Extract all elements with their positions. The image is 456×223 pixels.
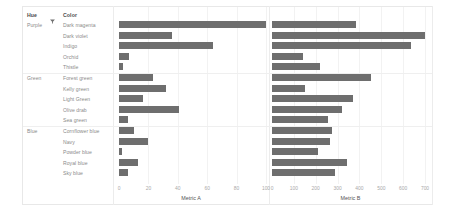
color-row-label: Forest green bbox=[63, 75, 92, 81]
bar-metric-b[interactable] bbox=[272, 85, 305, 92]
color-row-label: Indigo bbox=[63, 43, 77, 49]
tick-metric-a: 60 bbox=[204, 186, 209, 191]
color-row-label: Orchid bbox=[63, 54, 78, 60]
bar-metric-b[interactable] bbox=[272, 74, 371, 81]
color-row-label: Powder blue bbox=[63, 149, 92, 155]
tick-metric-b: 300 bbox=[333, 186, 341, 191]
bar-metric-b[interactable] bbox=[272, 95, 353, 102]
header-hue[interactable]: Hue bbox=[27, 12, 37, 18]
bar-metric-b[interactable] bbox=[272, 138, 330, 145]
bar-metric-b[interactable] bbox=[272, 127, 332, 134]
gridline-metric-b-700 bbox=[425, 7, 426, 184]
tick-metric-b: 400 bbox=[355, 186, 363, 191]
bar-metric-a[interactable] bbox=[119, 169, 128, 176]
bar-metric-b[interactable] bbox=[272, 116, 328, 123]
hue-group-label: Green bbox=[27, 75, 41, 81]
bar-metric-a[interactable] bbox=[119, 42, 213, 49]
group-divider bbox=[23, 73, 432, 74]
color-row-label: Cornflower blue bbox=[63, 128, 99, 134]
bar-metric-b[interactable] bbox=[272, 159, 347, 166]
color-row-label: Light Green bbox=[63, 96, 90, 102]
color-row-label: Dark magenta bbox=[63, 22, 96, 28]
gridline-metric-a-80 bbox=[237, 7, 238, 184]
bar-metric-a[interactable] bbox=[119, 106, 179, 113]
bar-metric-a[interactable] bbox=[119, 63, 123, 70]
tick-metric-a: 80 bbox=[234, 186, 239, 191]
bar-metric-b[interactable] bbox=[272, 21, 356, 28]
bar-metric-b[interactable] bbox=[272, 148, 318, 155]
color-row-label: Sea green bbox=[63, 117, 87, 123]
group-divider bbox=[23, 126, 432, 127]
tick-metric-b: 700 bbox=[421, 186, 429, 191]
color-row-label: Thistle bbox=[63, 64, 78, 70]
hue-group-label: Blue bbox=[27, 128, 37, 134]
column-divider-2 bbox=[269, 6, 270, 205]
tick-metric-a: 0 bbox=[118, 186, 121, 191]
tick-metric-a: 20 bbox=[146, 186, 151, 191]
bar-metric-b[interactable] bbox=[272, 169, 335, 176]
bar-metric-b[interactable] bbox=[272, 106, 342, 113]
tick-metric-b: 100 bbox=[290, 186, 298, 191]
bar-metric-a[interactable] bbox=[119, 32, 172, 39]
bar-metric-b[interactable] bbox=[272, 32, 425, 39]
tick-metric-b: 0 bbox=[271, 186, 274, 191]
axis-title-metric-a: Metric A bbox=[181, 195, 200, 201]
bar-metric-a[interactable] bbox=[119, 85, 166, 92]
chart-root: HueColor PurpleDark magentaDark violetIn… bbox=[0, 0, 456, 223]
column-divider-3 bbox=[432, 6, 433, 205]
bar-metric-a[interactable] bbox=[119, 116, 128, 123]
header-color[interactable]: Color bbox=[63, 12, 77, 18]
sort-descending-icon[interactable] bbox=[49, 11, 56, 18]
color-row-label: Kelly green bbox=[63, 86, 89, 92]
hue-group-label: Purple bbox=[27, 22, 42, 28]
gridline-metric-a-60 bbox=[207, 7, 208, 184]
bar-metric-a[interactable] bbox=[119, 53, 129, 60]
bar-metric-a[interactable] bbox=[119, 127, 134, 134]
tick-metric-b: 600 bbox=[399, 186, 407, 191]
color-row-label: Royal blue bbox=[63, 160, 88, 166]
bar-metric-b[interactable] bbox=[272, 63, 320, 70]
bar-metric-a[interactable] bbox=[119, 148, 122, 155]
gridline-metric-a-100 bbox=[266, 7, 267, 184]
gridline-metric-a-40 bbox=[178, 7, 179, 184]
bar-metric-b[interactable] bbox=[272, 53, 303, 60]
bar-metric-a[interactable] bbox=[119, 21, 266, 28]
color-row-label: Olive drab bbox=[63, 107, 87, 113]
tick-metric-a: 40 bbox=[175, 186, 180, 191]
color-row-label: Navy bbox=[63, 139, 75, 145]
bar-metric-a[interactable] bbox=[119, 74, 153, 81]
bar-metric-a[interactable] bbox=[119, 95, 143, 102]
column-divider-1 bbox=[113, 6, 114, 205]
tick-metric-b: 500 bbox=[377, 186, 385, 191]
color-row-label: Dark violet bbox=[63, 33, 88, 39]
tick-metric-b: 200 bbox=[312, 186, 320, 191]
bar-metric-a[interactable] bbox=[119, 159, 138, 166]
axis-title-metric-b: Metric B bbox=[341, 195, 361, 201]
color-row-label: Sky blue bbox=[63, 170, 83, 176]
bar-metric-b[interactable] bbox=[272, 42, 411, 49]
bar-metric-a[interactable] bbox=[119, 138, 148, 145]
tick-metric-a: 100 bbox=[262, 186, 270, 191]
